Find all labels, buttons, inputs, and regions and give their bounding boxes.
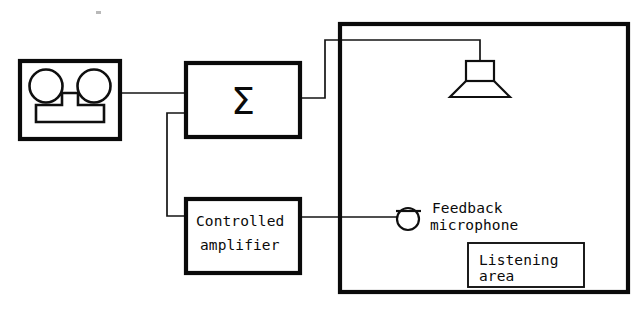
summing-amplifier[interactable]: Σ	[186, 63, 300, 137]
feedback-microphone-label-line-1: Feedback	[432, 200, 503, 216]
loudspeaker-horn-icon	[450, 81, 510, 97]
signal-path-controlled-amplifier-to-sum	[167, 113, 186, 216]
loudspeaker[interactable]	[450, 61, 510, 97]
listening-area-label-line-2: area	[479, 268, 514, 284]
loudspeaker-body-icon	[466, 61, 494, 81]
listening-area-label-line-1: Listening	[479, 252, 558, 268]
scan-artifact-speck	[96, 11, 101, 14]
schematic-svg: Σ Controlled amplifier Feedback micropho…	[0, 0, 638, 314]
tape-transport-deck-icon	[36, 93, 104, 122]
feedback-microphone[interactable]: Feedback microphone	[396, 200, 518, 233]
controlled-amplifier[interactable]: Controlled amplifier	[186, 199, 300, 273]
block-diagram-canvas: Σ Controlled amplifier Feedback micropho…	[0, 0, 638, 314]
tape-reel-right-icon	[78, 70, 111, 103]
feedback-microphone-label-line-2: microphone	[430, 217, 518, 233]
controlled-amplifier-label-line-2: amplifier	[200, 237, 280, 253]
tape-recorder[interactable]	[20, 61, 120, 139]
sigma-symbol: Σ	[231, 79, 255, 123]
tape-reel-left-icon	[30, 70, 63, 103]
signal-path-sum-to-loudspeaker	[300, 40, 480, 98]
listening-area[interactable]: Listening area	[468, 243, 584, 287]
controlled-amplifier-label-line-1: Controlled	[196, 213, 284, 229]
